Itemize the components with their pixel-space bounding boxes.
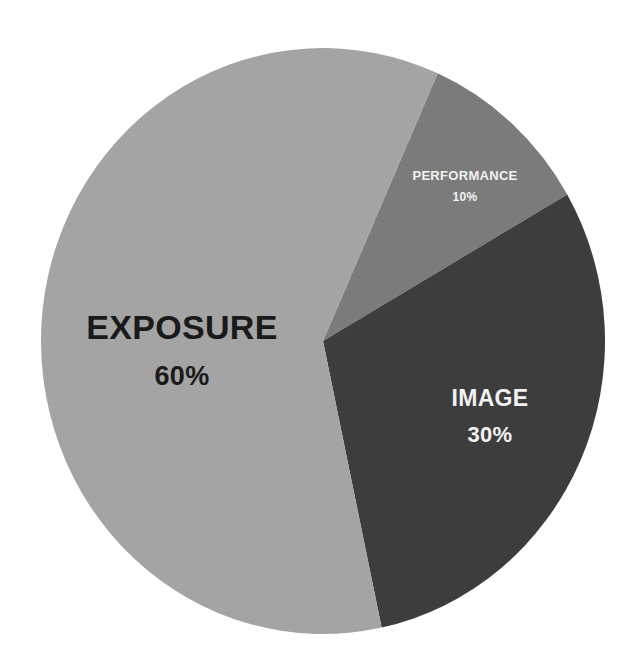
exposure-name: EXPOSURE	[86, 310, 277, 344]
performance-percent: 10%	[412, 191, 517, 203]
image-name: IMAGE	[452, 387, 529, 410]
performance-label: PERFORMANCE 10%	[412, 169, 517, 203]
image-label: IMAGE 30%	[452, 387, 529, 446]
exposure-percent: 60%	[86, 363, 277, 390]
exposure-label: EXPOSURE 60%	[86, 310, 277, 390]
image-percent: 30%	[452, 424, 529, 446]
performance-name: PERFORMANCE	[412, 169, 517, 182]
